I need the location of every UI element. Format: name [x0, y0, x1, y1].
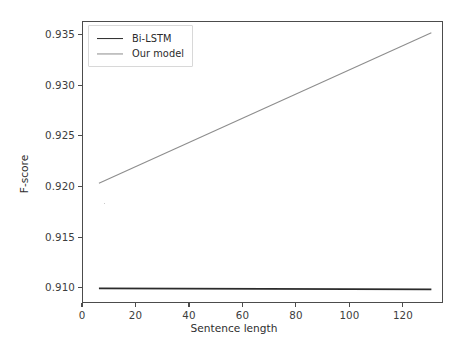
y-tick-label: 0.935	[30, 28, 75, 40]
legend-line-icon	[95, 33, 125, 45]
y-axis-label-container: F-score	[13, 0, 35, 347]
x-tick-label: 40	[169, 309, 209, 321]
x-tick-mark	[242, 303, 243, 307]
legend-entry-bi-lstm[interactable]: Bi-LSTM	[95, 31, 184, 46]
series-line-bi-lstm	[99, 288, 431, 289]
x-axis-label: Sentence length	[0, 322, 468, 334]
x-tick-mark	[188, 303, 189, 307]
figure-canvas: F-score 0.9100.9150.9200.9250.9300.935 0…	[0, 0, 468, 347]
legend-entry-our-model[interactable]: Our model	[95, 46, 184, 61]
legend-line-icon	[95, 48, 125, 60]
x-tick-label: 0	[62, 309, 102, 321]
legend-entry-label: Bi-LSTM	[132, 33, 171, 44]
y-tick-label: 0.925	[30, 129, 75, 141]
x-tick-mark	[295, 303, 296, 307]
x-tick-mark	[135, 303, 136, 307]
legend: Bi-LSTM Our model	[88, 25, 193, 67]
x-tick-mark	[349, 303, 350, 307]
legend-entry-label: Our model	[132, 48, 184, 59]
y-tick-label: 0.930	[30, 79, 75, 91]
x-tick-mark	[81, 303, 82, 307]
x-tick-label: 100	[329, 309, 369, 321]
x-tick-mark	[402, 303, 403, 307]
y-tick-label: 0.920	[30, 180, 75, 192]
y-axis-label: F-score	[18, 154, 30, 192]
y-tick-label: 0.910	[30, 281, 75, 293]
x-tick-label: 80	[276, 309, 316, 321]
y-tick-label: 0.915	[30, 231, 75, 243]
x-tick-label: 60	[222, 309, 262, 321]
x-tick-label: 20	[115, 309, 155, 321]
x-tick-label: 120	[383, 309, 423, 321]
